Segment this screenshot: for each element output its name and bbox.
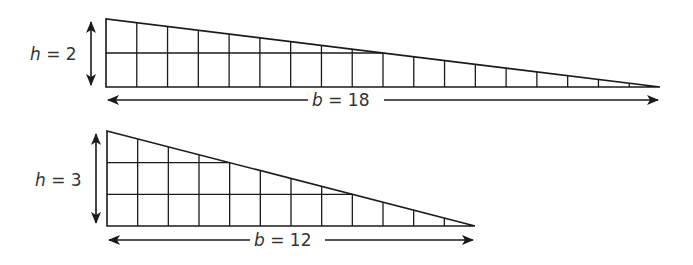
- height-label-bottom: h = 3: [35, 170, 82, 190]
- base-label-top: b = 18: [312, 90, 370, 110]
- triangle-top: [106, 19, 660, 87]
- height-label-top: h = 2: [30, 44, 77, 64]
- grid-top: [106, 23, 629, 87]
- base-label-bottom: b = 12: [254, 230, 312, 250]
- grid-bottom: [107, 139, 444, 226]
- triangle-bottom: [107, 131, 475, 226]
- triangles-diagram: h = 2 b = 18 h = 3 b = 12: [0, 0, 693, 265]
